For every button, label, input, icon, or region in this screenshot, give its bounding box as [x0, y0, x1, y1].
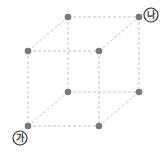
edge: [99, 17, 139, 51]
vertex-dot: [136, 89, 143, 96]
cube-edges: [28, 17, 139, 126]
cube-vertices: [25, 14, 143, 130]
label-ga: 가: [13, 131, 27, 145]
vertex-dot: [96, 48, 103, 55]
label-ga-text: 가: [16, 132, 25, 143]
edge: [99, 92, 139, 126]
vertex-dot: [65, 14, 72, 21]
vertex-dot: [25, 123, 32, 130]
edge: [28, 17, 68, 51]
vertex-dot: [65, 89, 72, 96]
vertex-dot: [96, 123, 103, 130]
label-na-text: 나: [147, 9, 156, 20]
vertex-dot: [25, 48, 32, 55]
cube-diagram: 가 나: [0, 0, 168, 159]
edge: [28, 92, 68, 126]
label-na: 나: [144, 8, 158, 22]
vertex-dot: [136, 14, 143, 21]
